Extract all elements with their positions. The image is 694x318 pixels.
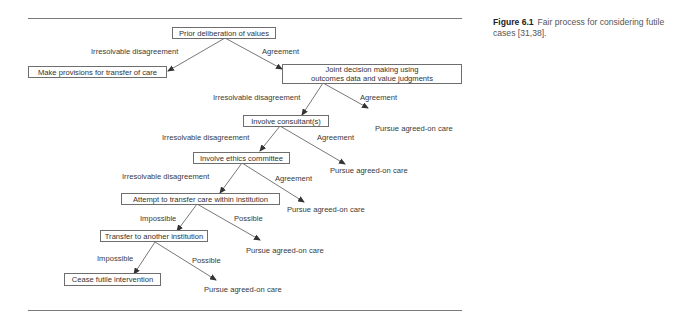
edge-label-agreement: Agreement xyxy=(275,174,312,183)
figure-caption: Figure 6.1Fair process for considering f… xyxy=(493,17,683,39)
node-cease-futile-intervention: Cease futile intervention xyxy=(64,273,161,286)
edge-label-possible: Possible xyxy=(192,256,221,265)
node-involve-consultants: Involve consultant(s) xyxy=(243,115,329,127)
figure-label: Figure 6.1 xyxy=(493,17,534,27)
edge-label-disagreement: Irresolvable disagreement xyxy=(162,133,249,142)
edge-label-disagreement: Irresolvable disagreement xyxy=(213,93,300,102)
node-pursue-care: Pursue agreed-on care xyxy=(375,124,453,133)
edge-label-agreement: Agreement xyxy=(360,93,397,102)
edge-label-impossible: Impossible xyxy=(97,254,133,263)
edge-label-impossible: Impossible xyxy=(140,214,176,223)
edge-label-possible: Possible xyxy=(234,214,263,223)
edge-label-agreement: Agreement xyxy=(262,47,299,56)
edge-label-disagreement: Irresolvable disagreement xyxy=(91,47,178,56)
node-attempt-transfer-within: Attempt to transfer care within institut… xyxy=(121,193,280,205)
node-pursue-care: Pursue agreed-on care xyxy=(330,166,408,175)
node-pursue-care: Pursue agreed-on care xyxy=(204,285,282,294)
node-joint-decision: Joint decision making using outcomes dat… xyxy=(282,64,462,84)
node-transfer-another-institution: Transfer to another institution xyxy=(100,230,208,242)
edge-label-agreement: Agreement xyxy=(317,133,354,142)
node-make-provisions: Make provisions for transfer of care xyxy=(28,66,167,78)
node-prior-deliberation: Prior deliberation of values xyxy=(172,27,276,39)
node-involve-ethics-committee: Involve ethics committee xyxy=(193,152,290,164)
node-pursue-care: Pursue agreed-on care xyxy=(246,246,324,255)
edge-label-disagreement: Irresolvable disagreement xyxy=(122,172,209,181)
node-pursue-care: Pursue agreed-on care xyxy=(287,205,365,214)
